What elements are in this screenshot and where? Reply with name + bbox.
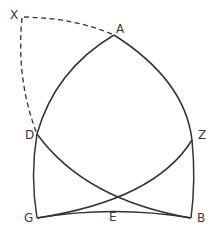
arc-d-b — [37, 134, 191, 218]
label-a: A — [116, 22, 125, 36]
geometry-diagram: X A D Z G E B — [0, 0, 215, 232]
label-z: Z — [198, 128, 206, 142]
arc-z-g — [37, 140, 192, 218]
arc-x-a-dashed — [24, 17, 114, 35]
label-b: B — [197, 211, 205, 225]
label-g: G — [24, 211, 33, 225]
label-e: E — [109, 210, 117, 224]
label-x: X — [10, 8, 18, 22]
arc-x-d-dashed — [21, 18, 37, 134]
arc-a-b — [114, 35, 194, 218]
label-d: D — [25, 128, 34, 142]
arc-a-d — [37, 35, 114, 134]
arc-d-g — [34, 134, 38, 218]
